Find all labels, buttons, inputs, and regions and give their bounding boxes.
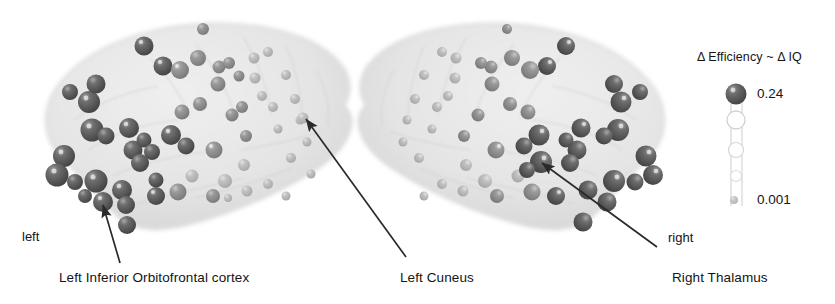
legend-min-value: 0.001 [757,192,791,207]
caption-left-cuneus: Left Cuneus [400,270,474,285]
legend-sphere-2 [731,171,742,182]
legend-title: Δ Efficiency ~ Δ IQ [697,50,802,64]
left-side-label: left [22,229,39,244]
caption-right-thalamus: Right Thalamus [672,270,768,285]
legend-sphere-max [726,84,747,105]
legend-sphere-min [730,196,738,204]
brain-efficiency-figure: Δ Efficiency ~ Δ IQ 0.24 0.001 left righ… [0,0,835,304]
right-side-label: right [668,230,693,245]
legend-sphere-4 [727,111,745,129]
legend-sphere-3 [729,143,744,158]
figure-canvas [0,0,835,304]
legend-scale [726,84,747,207]
legend-max-value: 0.24 [757,86,783,101]
caption-left-inferior-orbitofrontal-cortex: Left Inferior Orbitofrontal cortex [59,270,249,285]
right-hemisphere [359,23,665,231]
left-cuneus-node [298,113,309,124]
left-hemisphere [46,23,352,234]
